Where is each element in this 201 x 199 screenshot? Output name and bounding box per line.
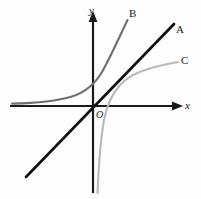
curve-label-a: A (176, 24, 184, 35)
coordinate-plot (0, 0, 201, 199)
curve-logarithmic-c (98, 62, 179, 193)
x-axis-arrowhead-icon (172, 102, 183, 111)
origin-label: O (96, 110, 103, 120)
figure-canvas: A B C x y O (0, 0, 201, 199)
x-axis-label: x (185, 100, 190, 111)
curve-label-b: B (129, 8, 136, 19)
y-axis-label: y (89, 5, 94, 16)
y-axis (89, 11, 98, 193)
curve-label-c: C (181, 55, 188, 66)
